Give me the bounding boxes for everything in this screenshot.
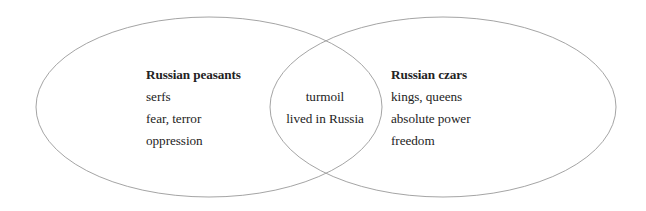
right-set-labels: Russian czars kings, queens absolute pow…	[391, 64, 471, 152]
intersection-item: turmoil	[264, 86, 386, 108]
left-set-title: Russian peasants	[146, 64, 241, 86]
intersection-item: lived in Russia	[264, 108, 386, 130]
right-set-item: absolute power	[391, 108, 471, 130]
right-set-item: freedom	[391, 130, 471, 152]
left-set-item: oppression	[146, 130, 241, 152]
left-set-labels: Russian peasants serfs fear, terror oppr…	[146, 64, 241, 152]
left-set-item: fear, terror	[146, 108, 241, 130]
venn-diagram: Russian peasants serfs fear, terror oppr…	[0, 0, 646, 211]
venn-text-layer: Russian peasants serfs fear, terror oppr…	[0, 0, 646, 211]
intersection-labels: turmoil lived in Russia	[264, 86, 386, 130]
right-set-item: kings, queens	[391, 86, 471, 108]
right-set-title: Russian czars	[391, 64, 471, 86]
left-set-item: serfs	[146, 86, 241, 108]
